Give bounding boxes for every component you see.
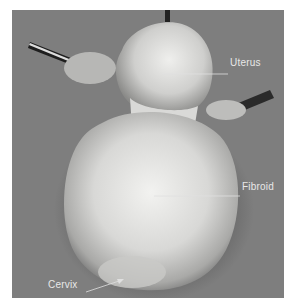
specimen-illustration: [12, 10, 284, 298]
cervix: [98, 256, 166, 288]
left-adnexa: [64, 52, 116, 84]
right-adnexa: [206, 100, 246, 120]
specimen-photo: [12, 10, 284, 298]
label-fibroid: Fibroid: [242, 181, 274, 192]
label-cervix: Cervix: [48, 279, 78, 290]
clamp-top: [165, 10, 170, 22]
label-uterus: Uterus: [230, 57, 261, 68]
